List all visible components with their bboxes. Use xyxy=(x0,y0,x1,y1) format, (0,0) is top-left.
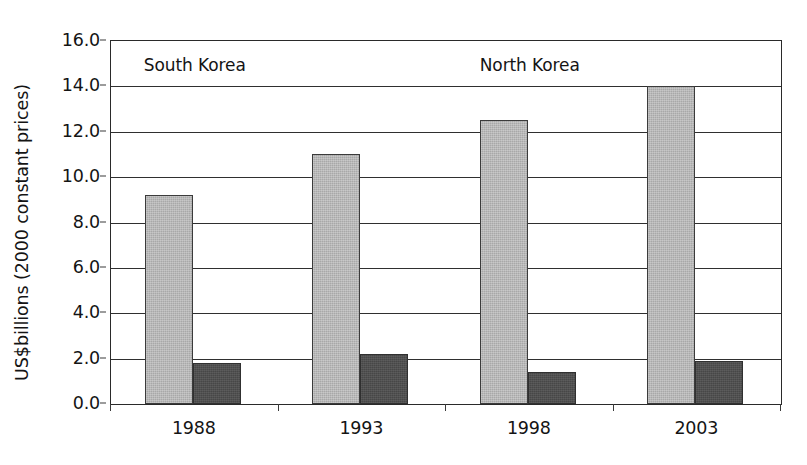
y-axis-tick-label: 4.0 xyxy=(73,302,100,322)
y-axis-tick-mark xyxy=(100,403,106,404)
y-axis-tick-mark xyxy=(100,221,106,222)
plot-area: South KoreaNorth Korea xyxy=(110,40,782,405)
x-axis-tick-mark xyxy=(780,404,781,411)
y-axis-tick-label: 12.0 xyxy=(62,121,100,141)
x-axis-tick-label: 1998 xyxy=(507,418,551,438)
y-axis-tick-mark xyxy=(100,266,106,267)
y-axis-tick-label: 14.0 xyxy=(62,75,100,95)
x-axis-tick-label: 1988 xyxy=(172,418,216,438)
x-axis-tick-mark xyxy=(613,404,614,411)
y-axis-tick-mark xyxy=(100,130,106,131)
y-axis-tick-mark xyxy=(100,40,106,41)
y-axis-tick-label: 10.0 xyxy=(62,166,100,186)
bar-south-korea-1993 xyxy=(312,154,360,404)
bar-south-korea-1988 xyxy=(145,195,193,404)
bars-layer xyxy=(111,41,781,404)
region-label-north-korea: North Korea xyxy=(480,55,580,75)
bar-south-korea-1998 xyxy=(480,120,528,404)
region-label-south-korea: South Korea xyxy=(144,55,246,75)
x-axis-tick-label: 1993 xyxy=(339,418,383,438)
x-axis-tick-label: 2003 xyxy=(674,418,718,438)
x-axis-tick-mark xyxy=(278,404,279,411)
y-axis-tick-mark xyxy=(100,357,106,358)
y-axis-tick-label: 8.0 xyxy=(73,212,100,232)
bar-chart: US$billions (2000 constant prices) 0.02.… xyxy=(0,0,807,465)
y-axis-tick-label: 0.0 xyxy=(73,393,100,413)
y-axis-tick-mark xyxy=(100,176,106,177)
x-axis-tick-mark xyxy=(445,404,446,411)
y-axis-tick-label: 6.0 xyxy=(73,257,100,277)
x-axis: 1988199319982003 xyxy=(110,404,782,464)
bar-south-korea-2003 xyxy=(647,86,695,404)
bar-north-korea-1998 xyxy=(528,372,576,404)
y-axis-title: US$billions (2000 constant prices) xyxy=(0,0,44,465)
bar-north-korea-2003 xyxy=(695,361,743,404)
bar-north-korea-1993 xyxy=(360,354,408,404)
y-axis-tick-label: 16.0 xyxy=(62,30,100,50)
x-axis-tick-mark xyxy=(110,404,111,411)
bar-north-korea-1988 xyxy=(193,363,241,404)
y-axis-tick-labels: 0.02.04.06.08.010.012.014.016.0 xyxy=(44,40,106,403)
y-axis-tick-mark xyxy=(100,85,106,86)
y-axis-tick-label: 2.0 xyxy=(73,348,100,368)
y-axis-tick-mark xyxy=(100,312,106,313)
